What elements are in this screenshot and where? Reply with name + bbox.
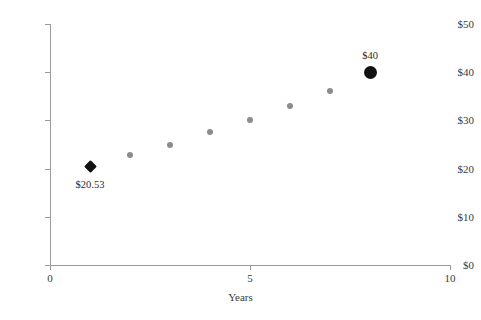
data-point-highlight-circle [364, 66, 377, 79]
y-axis-line [50, 24, 51, 266]
x-axis-tick [50, 265, 51, 270]
x-axis-title: Years [0, 291, 481, 304]
y-axis-tick [45, 217, 50, 218]
x-axis-tick-label: 0 [30, 272, 70, 284]
y-axis-tick-label: $30 [437, 115, 481, 126]
y-axis-tick-label: $50 [437, 19, 481, 30]
y-axis-tick [45, 169, 50, 170]
data-point-highlight-diamond [84, 160, 97, 173]
y-axis-tick [45, 120, 50, 121]
scatter-chart: $0 $10 $20 $30 $40 $50 0 5 10 Years $20.… [0, 0, 481, 320]
y-axis-tick-label: $0 [437, 260, 481, 271]
data-point [167, 142, 173, 148]
data-point-label: $20.53 [50, 179, 130, 190]
data-point-label: $40 [330, 50, 410, 61]
y-axis-tick [45, 24, 50, 25]
y-axis-tick-label: $40 [437, 67, 481, 78]
data-point [127, 152, 133, 158]
data-point [287, 103, 293, 109]
x-axis-tick [250, 265, 251, 270]
y-axis-tick [45, 72, 50, 73]
data-point [327, 88, 333, 94]
data-point [247, 117, 253, 123]
x-axis-tick [450, 265, 451, 270]
x-axis-tick-label: 10 [430, 272, 470, 284]
data-point [207, 129, 213, 135]
x-axis-tick-label: 5 [230, 272, 270, 284]
y-axis-tick-label: $20 [437, 164, 481, 175]
y-axis-tick-label: $10 [437, 212, 481, 223]
